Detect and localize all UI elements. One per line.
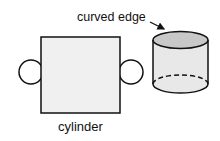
curved-edge-arrow xyxy=(150,22,164,29)
cylinder-solid xyxy=(153,32,208,94)
net-rectangle xyxy=(41,37,120,113)
net-right-circle xyxy=(119,60,143,84)
net-left-circle xyxy=(19,60,43,84)
cylinder-label: cylinder xyxy=(58,119,103,134)
curved-edge-label: curved edge xyxy=(77,10,146,24)
